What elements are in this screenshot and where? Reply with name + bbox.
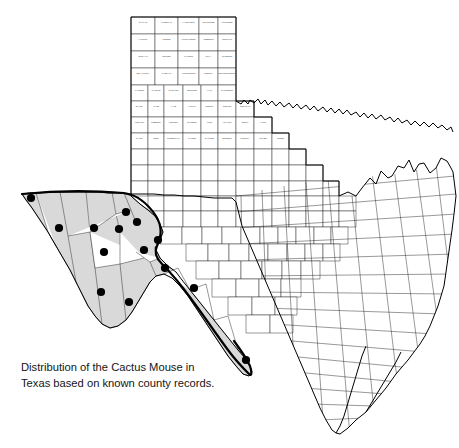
county-name-label: SHERMAN [161, 21, 172, 23]
county-name-label: KING [207, 121, 213, 123]
county-name-label: HOCKLEY [134, 121, 145, 123]
county-name-label: HALL [207, 89, 213, 91]
county-name-label: DEAF SMITH [137, 72, 150, 74]
panhandle-counties [131, 17, 356, 333]
county-name-label: BORDEN [222, 137, 231, 139]
county-name-label: HARTLEY [138, 38, 148, 40]
county-name-label: HEMPHILL [222, 38, 233, 40]
county-name-label: OCHILTREE [203, 21, 216, 23]
county-name-label: POTTER [162, 55, 171, 57]
county-name-label: HANSFORD [183, 21, 195, 23]
county-name-label: LAMB [153, 105, 159, 107]
county-name-label: LYNN [260, 121, 266, 123]
record-dot: Pecos [140, 246, 148, 254]
record-dot: Terrell [161, 264, 169, 272]
county-name-label: ARMSTRONG [182, 72, 196, 74]
county-name-label: BAILEY [136, 105, 144, 107]
county-name-label: STONEWALL [167, 137, 181, 139]
figure-caption: Distribution of the Cactus Mouse in Texa… [21, 360, 251, 391]
county-name-label: SCURRY [241, 137, 250, 139]
record-dot: Crockett [190, 284, 198, 292]
county-name-label: BRISCOE [187, 89, 197, 91]
county-name-label: DONLEY [204, 72, 213, 74]
county-name-label: MOORE [163, 38, 172, 40]
county-name-label: LIPSCOMB [222, 21, 233, 23]
county-name-label: GARZA [136, 137, 144, 139]
record-dot: Loving [122, 208, 130, 216]
county-name-label: SWISHER [169, 89, 179, 91]
county-name-label: HALE [171, 105, 177, 107]
record-dot: Presidio [97, 288, 105, 296]
county-name-label: OLDHAM [138, 55, 147, 57]
county-name-label: HUTCHINSON [181, 38, 196, 40]
county-name-label: DALLAM [139, 21, 148, 23]
county-name-label: DICKENS [187, 121, 197, 123]
county-name-label: KENT [153, 137, 159, 139]
county-name-label: FISHER [259, 137, 267, 139]
county-name-label: MOTLEY [205, 105, 214, 107]
record-dot: Culberson [90, 224, 98, 232]
county-name-label: PARMER [135, 89, 144, 91]
county-name-label: CROSBY [169, 121, 178, 123]
county-name-label: CARSON [184, 55, 193, 57]
distribution-map-figure: El PasoHudspethCulbersonReevesWardJeff D… [0, 0, 459, 448]
county-name-label: FLOYD [188, 105, 196, 107]
record-dot: Ward [133, 218, 141, 226]
record-dot: Reeves [115, 225, 123, 233]
county-name-label: CHILDRESS [221, 89, 234, 91]
county-name-label: COCHRAN [240, 105, 251, 107]
county-name-label: COTTLE [223, 105, 232, 107]
county-name-label: ROBERTS [203, 38, 214, 40]
county-name-label: JONES [277, 137, 285, 139]
county-name-label: RANDALL [162, 72, 173, 74]
county-name-label: LUBBOCK [151, 121, 162, 123]
county-name-label: GAINES [188, 137, 197, 139]
record-dot: El Paso [27, 194, 35, 202]
county-name-label: TERRY [241, 121, 249, 123]
record-dot: Hudspeth [55, 224, 63, 232]
county-name-label: DAWSON [205, 137, 215, 139]
county-name-label: CASTRO [152, 89, 161, 91]
county-name-label: COLLINGSWORTH [218, 72, 237, 74]
county-name-label: YOAKUM [222, 121, 231, 123]
record-dot: Brewster [125, 298, 133, 306]
record-dot: Winkler [154, 236, 162, 244]
record-dot: Jeff Davis [100, 248, 108, 256]
county-name-label: GRAY [206, 55, 212, 57]
county-name-label: WHEELER [222, 55, 233, 57]
